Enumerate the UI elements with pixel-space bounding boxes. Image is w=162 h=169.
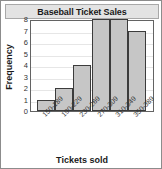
y-axis-tick-labels: 012345678: [18, 20, 29, 112]
chart-title: Baseball Ticket Sales: [37, 7, 126, 17]
y-tick-label: 1: [24, 97, 28, 105]
y-tick-label: 0: [24, 108, 28, 116]
x-axis-title-label: Tickets sold: [56, 155, 108, 165]
y-tick-label: 5: [24, 51, 28, 59]
x-axis-title: Tickets sold: [1, 153, 162, 167]
chart-figure: Baseball Ticket Sales Frequency 01234567…: [0, 0, 162, 169]
y-axis-title-label: Frequency: [4, 44, 14, 90]
y-tick-label: 6: [24, 39, 28, 47]
y-tick-label: 4: [24, 62, 28, 70]
x-axis-tick-labels: 150-189190-229230-269270-309310-349350-3…: [30, 113, 154, 153]
y-tick-label: 3: [24, 74, 28, 82]
y-tick-label: 7: [24, 28, 28, 36]
y-tick-label: 2: [24, 85, 28, 93]
y-tick-label: 8: [24, 16, 28, 24]
y-axis-title: Frequency: [2, 19, 16, 114]
chart-title-banner: Baseball Ticket Sales: [5, 4, 159, 19]
